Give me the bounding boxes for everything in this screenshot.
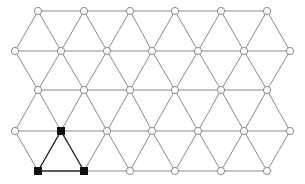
grid-edge (175, 90, 198, 131)
grid-node-circle (34, 7, 41, 14)
grid-edge (15, 51, 38, 90)
grid-node-circle (171, 7, 178, 14)
grid-edge (175, 51, 198, 90)
grid-node-circle (263, 7, 270, 14)
grid-edge (267, 131, 290, 171)
grid-edge (15, 90, 38, 131)
grid-node-circle (286, 127, 293, 134)
grid-node-circle (11, 127, 18, 134)
grid-edge (61, 51, 84, 90)
grid-node-circle (263, 167, 270, 174)
grid-edge (130, 11, 152, 51)
grid-node-circle (171, 86, 178, 93)
grid-node-circle (126, 86, 133, 93)
grid-node-circle (263, 86, 270, 93)
grid-node-circle (80, 7, 87, 14)
grid-node-circle (11, 47, 18, 54)
grid-edge (198, 51, 221, 90)
grid-node-circle (148, 47, 155, 54)
highlighted-node-square (58, 128, 65, 135)
grid-edge (84, 131, 107, 171)
grid-edge (61, 11, 84, 51)
grid-node-circle (217, 7, 224, 14)
grid-edge (244, 131, 267, 171)
grid-node-circle (103, 127, 110, 134)
grid-edge (175, 11, 198, 51)
grid-edge (107, 131, 130, 171)
grid-edge (175, 131, 198, 171)
grid-node-circle (194, 47, 201, 54)
grid-edge (61, 90, 84, 131)
grid-node-circle (286, 47, 293, 54)
highlighted-edge (61, 131, 84, 171)
grid-edge (267, 90, 290, 131)
grid-edge (130, 90, 152, 131)
grid-edge (152, 11, 175, 51)
grid-edge (152, 51, 175, 90)
grid-edge (84, 51, 107, 90)
grid-edge (130, 131, 152, 171)
grid-edge (107, 90, 130, 131)
grid-edge (107, 11, 130, 51)
grid-edge (107, 51, 130, 90)
grid-edge (38, 51, 61, 90)
grid-node-circle (148, 127, 155, 134)
grid-edge (38, 90, 61, 131)
grid-edge (130, 51, 152, 90)
grid-node-circle (103, 47, 110, 54)
grid-edge (221, 51, 244, 90)
grid-node-circle (126, 167, 133, 174)
highlighted-node-square (81, 168, 88, 175)
grid-edge (15, 131, 38, 171)
grid-edge (221, 90, 244, 131)
grid-node-circle (240, 127, 247, 134)
grid-node-circle (194, 127, 201, 134)
grid-edge (267, 51, 290, 90)
grid-node-circle (80, 86, 87, 93)
grid-edge (152, 131, 175, 171)
grid-edge (15, 11, 38, 51)
grid-nodes (11, 7, 293, 174)
highlighted-edge (38, 131, 61, 171)
triangular-grid-diagram (0, 0, 305, 184)
grid-node-circle (126, 7, 133, 14)
grid-node-circle (217, 86, 224, 93)
grid-edge (198, 11, 221, 51)
grid-edge (244, 11, 267, 51)
grid-edge (267, 11, 290, 51)
highlighted-node-square (35, 168, 42, 175)
grid-edge (221, 131, 244, 171)
grid-edge (84, 11, 107, 51)
grid-edge (198, 90, 221, 131)
grid-node-circle (57, 47, 64, 54)
grid-edge (198, 131, 221, 171)
grid-node-circle (34, 86, 41, 93)
grid-node-circle (240, 47, 247, 54)
grid-edge (38, 11, 61, 51)
grid-edges (15, 11, 290, 171)
grid-edge (244, 90, 267, 131)
grid-edge (84, 90, 107, 131)
grid-node-circle (171, 167, 178, 174)
grid-edge (152, 90, 175, 131)
grid-edge (221, 11, 244, 51)
grid-node-circle (217, 167, 224, 174)
grid-edge (244, 51, 267, 90)
